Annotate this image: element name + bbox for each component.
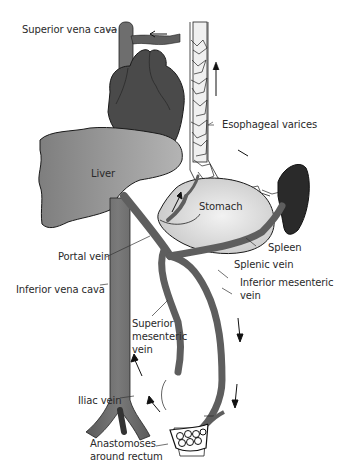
label-anastomoses-2: around rectum: [90, 451, 163, 463]
label-iliac-vein: Iliac vein: [78, 395, 122, 407]
label-anastomoses: Anastomoses: [90, 438, 156, 450]
label-splenic-vein: Splenic vein: [234, 259, 293, 271]
label-inferior-mesenteric-vein: Inferior mesenteric: [240, 277, 333, 289]
esophagus-varices: [190, 22, 280, 200]
label-portal-vein: Portal vein: [58, 251, 110, 263]
spleen: [278, 164, 309, 234]
label-liver: Liver: [91, 168, 115, 180]
label-superior-vena-cava: Superior vena cava: [22, 24, 117, 36]
label-stomach: Stomach: [199, 201, 242, 213]
label-esophageal-varices: Esophageal varices: [222, 119, 317, 131]
portal-circulation-diagram: [0, 0, 338, 476]
label-inferior-mesenteric-vein-2: vein: [240, 290, 261, 302]
label-superior-mesenteric-vein-2: mesenteric: [132, 331, 187, 343]
label-spleen: Spleen: [268, 242, 302, 254]
label-superior-mesenteric-vein: Superior: [132, 318, 174, 330]
rectum-anastomoses: [162, 380, 225, 456]
label-inferior-vena-cava: Inferior vena cava: [16, 284, 105, 296]
label-superior-mesenteric-vein-3: vein: [132, 344, 153, 356]
